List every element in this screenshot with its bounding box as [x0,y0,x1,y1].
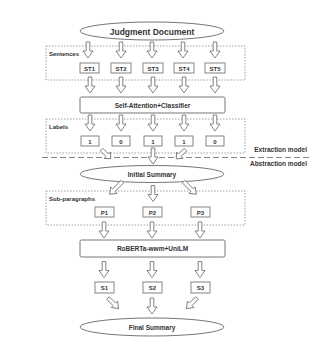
label-box: 1 [175,136,193,146]
classifier-label: Self-Attention+Classifier [115,102,191,109]
label-box: 1 [144,136,162,146]
svg-text:S1: S1 [101,285,109,291]
svg-text:S3: S3 [197,285,205,291]
svg-text:ST1: ST1 [84,66,96,72]
subparagraphs-group-label: Sub-paragraphs [49,196,96,202]
summary-box: S1 [95,282,114,293]
svg-text:ST2: ST2 [115,66,127,72]
sentence-box: ST3 [143,63,163,73]
svg-text:ST4: ST4 [178,66,190,72]
svg-text:S2: S2 [149,285,157,291]
sentences-group-label: Sentences [49,51,80,57]
label-box: 0 [206,136,224,146]
label-boxes: 1 0 1 1 0 [81,136,224,146]
initial-summary-node: Initial Summary [80,166,224,183]
labels-group-label: Labels [49,124,69,130]
arrows-abstractor-to-summaries [99,262,205,278]
final-summary-label: Final Summary [129,324,176,332]
extraction-model-label: Extraction model [254,146,307,153]
subparagraph-box: P3 [191,207,210,217]
arrows-labels-to-initial-summary [98,146,188,164]
abstractor-label: RoBERTa-wwm+UniLM [117,245,188,252]
final-summary-node: Final Summary [80,318,224,336]
abstractor-node: RoBERTa-wwm+UniLM [80,240,225,257]
summary-boxes: S1 S2 S3 [95,282,210,293]
classifier-node: Self-Attention+Classifier [80,97,225,113]
label-box: 0 [112,136,130,146]
abstraction-model-label: Abstraction model [250,160,307,167]
sentence-box: ST2 [111,63,131,73]
svg-text:ST3: ST3 [147,66,159,72]
sentence-box: ST4 [174,63,194,73]
summary-box: S3 [191,282,210,293]
arrows-classifier-to-labels [85,115,220,131]
judgment-document-node: Judgment Document [80,22,224,40]
judgment-document-label: Judgment Document [110,27,195,37]
svg-text:ST5: ST5 [209,66,221,72]
sentence-boxes: ST1 ST2 ST3 ST4 ST5 [80,63,225,73]
subparagraph-boxes: P1 P2 P3 [95,207,210,217]
arrows-sentences-to-classifier [85,77,220,93]
initial-summary-label: Initial Summary [128,171,177,179]
svg-text:P2: P2 [149,210,157,216]
subparagraph-box: P2 [143,207,162,217]
arrows-subparagraphs-to-abstractor [99,222,205,238]
subparagraph-box: P1 [95,207,114,217]
summary-box: S2 [143,282,162,293]
pipeline-diagram: Judgment Document Sentences ST1 ST2 ST3 … [0,0,325,352]
sentence-box: ST1 [80,63,99,73]
sentence-box: ST5 [205,63,225,73]
arrows-summaries-to-final [105,295,200,314]
svg-text:P3: P3 [197,210,205,216]
svg-text:P1: P1 [101,210,109,216]
label-box: 1 [81,136,99,146]
arrows-doc-to-sentences [83,42,220,58]
